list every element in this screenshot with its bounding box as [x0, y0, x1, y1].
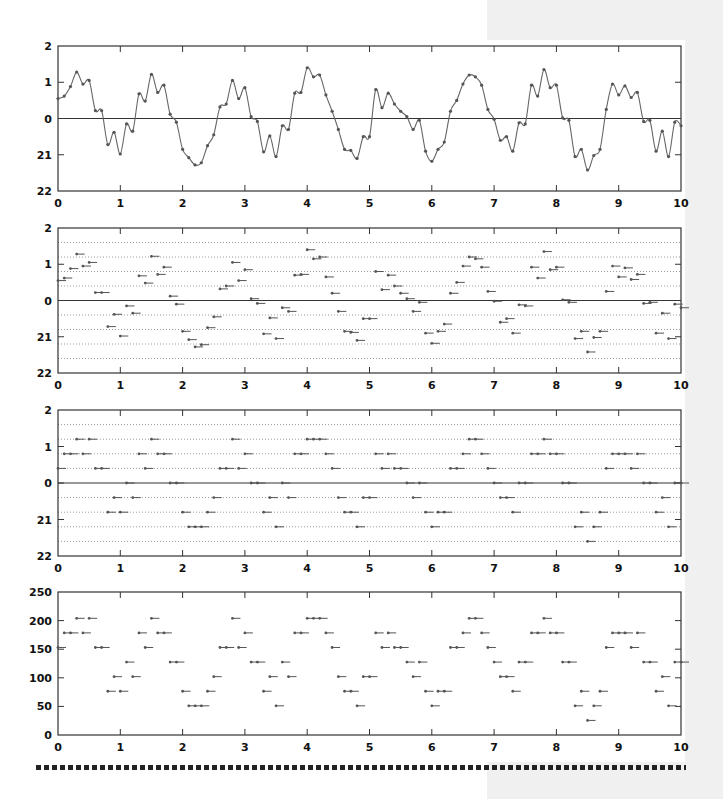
digital-code-plot: 012345678910250200150100500	[29, 586, 689, 754]
sample-dot	[131, 312, 134, 315]
sample-dot	[293, 631, 296, 634]
x-tick-label: 9	[615, 379, 623, 392]
sample-dot	[256, 482, 259, 485]
sample-dot	[225, 646, 228, 649]
sample-dot	[424, 511, 427, 514]
sample-dot	[225, 102, 228, 105]
plot-frame	[58, 592, 681, 735]
sample-dot	[493, 118, 496, 121]
sample-dot	[592, 704, 595, 707]
sample-dot	[461, 82, 464, 85]
sample-dot	[94, 467, 97, 470]
sample-dot	[138, 631, 141, 634]
sample-dot	[337, 128, 340, 131]
x-tick-label: 3	[241, 379, 249, 392]
sample-dot	[474, 257, 477, 260]
sample-dot	[343, 511, 346, 514]
sample-dot	[225, 285, 228, 288]
sample-dot	[82, 452, 85, 455]
sample-dot	[337, 496, 340, 499]
sample-dot	[493, 300, 496, 303]
sample-dot	[100, 467, 103, 470]
sample-dot	[75, 438, 78, 441]
sample-dot	[611, 265, 614, 268]
sample-dot	[667, 155, 670, 158]
sample-dot	[630, 646, 633, 649]
sample-dot	[306, 66, 309, 69]
sample-dot	[131, 496, 134, 499]
x-tick-label: 2	[179, 197, 187, 210]
sample-dot	[561, 298, 564, 301]
sample-dot	[511, 690, 514, 693]
sample-dot	[505, 135, 508, 138]
sample-dot	[499, 139, 502, 142]
sample-dot	[219, 646, 222, 649]
sample-dot	[580, 511, 583, 514]
sample-dot	[306, 438, 309, 441]
x-tick-label: 10	[673, 197, 689, 210]
sample-dot	[567, 482, 570, 485]
sample-dot	[237, 97, 240, 100]
sample-dot	[549, 452, 552, 455]
sample-dot	[119, 152, 122, 155]
sample-dot	[169, 295, 172, 298]
sample-dot	[642, 661, 645, 664]
sample-dot	[175, 482, 178, 485]
sample-dot	[561, 482, 564, 485]
sample-dot	[381, 288, 384, 291]
sample-dot	[119, 511, 122, 514]
x-tick-label: 4	[303, 197, 311, 210]
sample-dot	[368, 496, 371, 499]
sample-dot	[106, 143, 109, 146]
sample-dot	[486, 646, 489, 649]
sample-dot	[187, 338, 190, 341]
sample-dot	[555, 266, 558, 269]
sample-dot	[206, 511, 209, 514]
sample-dot	[430, 525, 433, 528]
x-tick-label: 1	[116, 379, 124, 392]
sample-dot	[300, 452, 303, 455]
sample-dot	[181, 690, 184, 693]
sample-dot	[661, 312, 664, 315]
x-tick-label: 5	[366, 741, 374, 754]
sample-dot	[405, 482, 408, 485]
sample-dot	[430, 342, 433, 345]
sample-dot	[530, 84, 533, 87]
sample-dot	[106, 325, 109, 328]
x-tick-label: 6	[428, 379, 436, 392]
sample-dot	[412, 310, 415, 313]
sample-dot	[661, 675, 664, 678]
sample-dot	[605, 108, 608, 111]
sample-dot	[405, 661, 408, 664]
sample-dot	[530, 266, 533, 269]
sample-dot	[549, 631, 552, 634]
sample-dot	[268, 134, 271, 137]
y-tick-label: 21	[37, 514, 52, 527]
sample-dot	[250, 661, 253, 664]
sample-dot	[430, 160, 433, 163]
sample-dot	[580, 330, 583, 333]
sample-dot	[624, 266, 627, 269]
sample-dot	[418, 119, 421, 122]
sample-dot	[144, 100, 147, 103]
y-tick-label: 0	[44, 729, 52, 742]
sample-dot	[524, 305, 527, 308]
x-tick-label: 2	[179, 741, 187, 754]
sample-dot	[493, 661, 496, 664]
sample-dot	[181, 330, 184, 333]
sample-dot	[405, 297, 408, 300]
sample-dot	[337, 675, 340, 678]
sample-dot	[393, 646, 396, 649]
sample-dot	[318, 256, 321, 259]
sample-dot	[648, 301, 651, 304]
sample-dot	[293, 92, 296, 95]
sample-dot	[611, 631, 614, 634]
sample-dot	[231, 79, 234, 82]
sample-dot	[138, 274, 141, 277]
sample-dot	[318, 617, 321, 620]
sample-dot	[63, 94, 66, 97]
sample-dot	[636, 91, 639, 94]
sample-dot	[331, 110, 334, 113]
sample-dot	[424, 690, 427, 693]
sample-dot	[449, 467, 452, 470]
